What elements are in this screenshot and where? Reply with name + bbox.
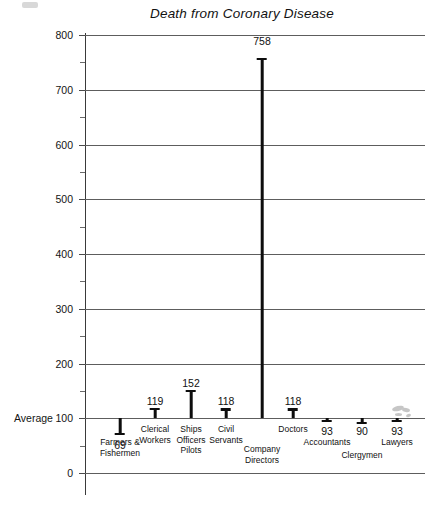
bar-end-cap xyxy=(392,420,402,422)
bar-category-label: Farmers & Fishermen xyxy=(100,437,140,458)
y-minor-tick-650 xyxy=(80,117,85,118)
bar-value-label: 93 xyxy=(321,426,333,437)
bar xyxy=(326,418,329,422)
average-reference-label: Average xyxy=(14,413,53,424)
y-tick-label-0: 0 xyxy=(67,468,73,479)
bar-value-label: 152 xyxy=(182,378,200,389)
bar-end-cap xyxy=(115,433,125,435)
y-tick-200 xyxy=(79,364,85,365)
y-tick-label-600: 600 xyxy=(55,140,73,151)
bar xyxy=(119,418,122,435)
y-tick-100 xyxy=(79,418,85,419)
bar-value-label: 758 xyxy=(253,36,271,47)
bar-category-label: Lawyers xyxy=(381,437,413,448)
gridline-400 xyxy=(85,254,425,255)
y-minor-tick-250 xyxy=(80,336,85,337)
bar xyxy=(396,418,399,422)
bar-end-cap xyxy=(186,390,196,392)
y-axis-tick-labels: 0100200300400500600700800 xyxy=(0,35,73,473)
y-tick-label-300: 300 xyxy=(55,304,73,315)
bar-category-label: Company Directors xyxy=(244,444,280,465)
y-tick-700 xyxy=(79,90,85,91)
gridline-0 xyxy=(85,473,425,474)
bar-end-cap xyxy=(257,58,267,60)
y-tick-400 xyxy=(79,254,85,255)
y-tick-0 xyxy=(79,473,85,474)
y-tick-label-800: 800 xyxy=(55,30,73,41)
gridline-500 xyxy=(85,199,425,200)
bar-end-cap xyxy=(150,408,160,410)
bar-category-label: Ships Officers Pilots xyxy=(176,424,205,456)
gridline-600 xyxy=(85,145,425,146)
bar-end-cap xyxy=(221,408,231,410)
y-tick-label-700: 700 xyxy=(55,85,73,96)
bar xyxy=(154,408,157,418)
bar-value-label: 118 xyxy=(218,396,235,407)
gridline-200 xyxy=(85,364,425,365)
y-tick-label-500: 500 xyxy=(55,194,73,205)
coronary-disease-chart: Death from Coronary Disease 010020030040… xyxy=(0,0,436,515)
bar-end-cap xyxy=(357,422,367,424)
y-tick-label-100: 100 xyxy=(55,413,73,424)
bar-value-label: 93 xyxy=(391,426,403,437)
y-minor-tick-550 xyxy=(80,172,85,173)
y-tick-label-400: 400 xyxy=(55,249,73,260)
bar-category-label: Accountants xyxy=(304,437,351,448)
bar-category-label: Clergymen xyxy=(341,450,382,461)
bar-category-label: Clerical Workers xyxy=(139,424,171,445)
bar xyxy=(361,418,364,423)
bar-end-cap xyxy=(322,420,332,422)
scan-artifact-smudge xyxy=(390,405,416,419)
y-minor-tick-50 xyxy=(80,446,85,447)
bar-value-label: 119 xyxy=(147,396,164,407)
bar-value-label: 90 xyxy=(356,426,368,437)
gridline-100 xyxy=(85,418,425,419)
scan-artifact-corner xyxy=(22,2,38,8)
y-tick-600 xyxy=(79,145,85,146)
bar-end-cap xyxy=(288,408,298,410)
bar-value-label: 118 xyxy=(285,396,302,407)
bar-category-label: Civil Servants xyxy=(209,424,243,445)
y-minor-tick-450 xyxy=(80,227,85,228)
bar xyxy=(292,408,295,418)
bar xyxy=(225,408,228,418)
y-tick-label-200: 200 xyxy=(55,359,73,370)
chart-title: Death from Coronary Disease xyxy=(150,6,430,21)
y-minor-tick-150 xyxy=(80,391,85,392)
y-tick-300 xyxy=(79,309,85,310)
bar-category-label: Doctors xyxy=(278,424,307,435)
y-minor-tick-750 xyxy=(80,62,85,63)
y-tick-800 xyxy=(79,35,85,36)
bar xyxy=(261,58,264,418)
plot-area: 69Farmers & Fishermen119Clerical Workers… xyxy=(85,35,425,473)
y-tick-500 xyxy=(79,199,85,200)
gridline-700 xyxy=(85,90,425,91)
gridline-300 xyxy=(85,309,425,310)
y-minor-tick-350 xyxy=(80,281,85,282)
bar xyxy=(190,390,193,418)
